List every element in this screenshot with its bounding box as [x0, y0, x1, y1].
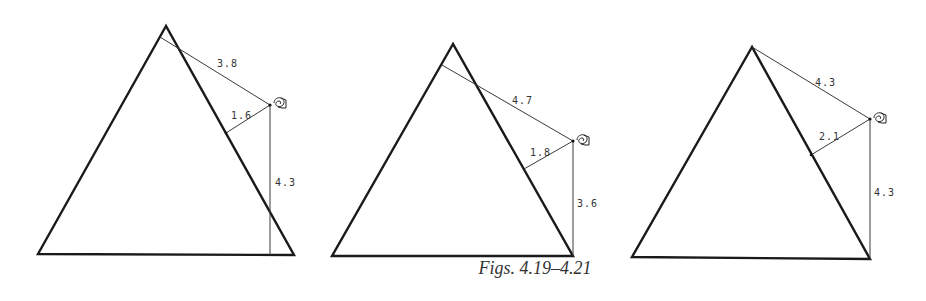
label-perpendicular: 2.1: [819, 131, 840, 142]
pointing-hand-icon: [874, 113, 886, 123]
figure-4-19: 3.8 1.6 4.3: [38, 26, 296, 255]
label-vertical: 4.3: [874, 187, 895, 198]
figure-4-20: 4.7 1.8 3.6: [332, 44, 598, 256]
foot-marker: [810, 154, 813, 157]
figure-4-21: 4.3 2.1 4.3: [632, 47, 895, 259]
pointing-hand-icon: [274, 98, 286, 108]
figure-caption: Figs. 4.19–4.21: [0, 258, 926, 279]
label-vertical: 4.3: [275, 177, 296, 188]
foot-marker: [225, 132, 228, 135]
pointing-hand-icon: [577, 135, 589, 145]
point-marker: [868, 117, 871, 120]
label-slant: 4.3: [815, 77, 836, 88]
triangle: [38, 26, 294, 255]
segment-slant: [160, 37, 270, 105]
label-slant: 4.7: [512, 95, 533, 106]
segment-slant: [442, 65, 573, 141]
point-marker: [571, 139, 574, 142]
figures-canvas: 3.8 1.6 4.3 4.7 1.8 3.6 4.3 2.1 4.3: [0, 0, 926, 301]
label-perpendicular: 1.8: [530, 147, 551, 158]
label-perpendicular: 1.6: [231, 110, 252, 121]
point-marker: [268, 103, 271, 106]
label-slant: 3.8: [217, 58, 238, 69]
label-vertical: 3.6: [577, 198, 598, 209]
segment-slant: [752, 47, 870, 119]
